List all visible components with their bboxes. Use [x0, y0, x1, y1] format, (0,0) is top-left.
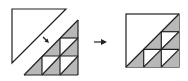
diagram-canvas — [0, 0, 188, 81]
motion-arrow-icon — [43, 37, 49, 43]
transition-arrow-icon — [94, 39, 107, 45]
left-figure — [12, 9, 78, 75]
right-figure — [126, 14, 179, 67]
